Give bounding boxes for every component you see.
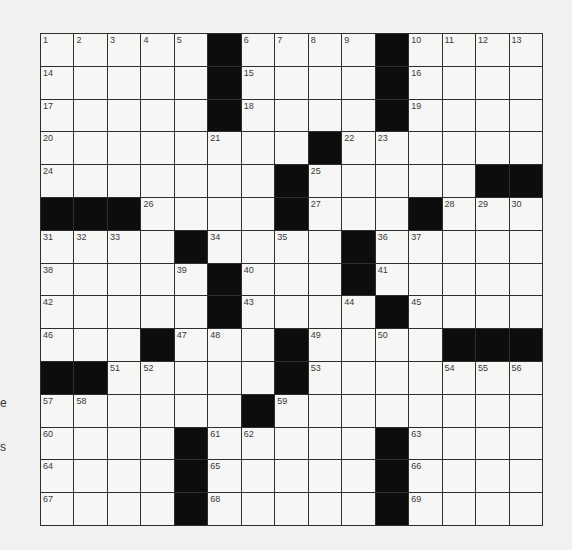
crossword-cell[interactable] <box>309 296 341 328</box>
crossword-cell[interactable] <box>275 132 307 164</box>
crossword-cell[interactable] <box>409 362 441 394</box>
crossword-cell[interactable] <box>108 100 140 132</box>
crossword-cell[interactable] <box>510 264 542 296</box>
crossword-cell[interactable]: 4 <box>141 34 173 66</box>
crossword-cell[interactable]: 66 <box>409 460 441 492</box>
crossword-cell[interactable]: 46 <box>41 329 73 361</box>
crossword-cell[interactable] <box>342 362 374 394</box>
crossword-cell[interactable] <box>141 264 173 296</box>
crossword-cell[interactable] <box>376 198 408 230</box>
crossword-cell[interactable] <box>443 395 475 427</box>
crossword-cell[interactable] <box>141 67 173 99</box>
crossword-cell[interactable] <box>208 362 240 394</box>
crossword-cell[interactable]: 37 <box>409 231 441 263</box>
crossword-cell[interactable] <box>476 100 508 132</box>
crossword-cell[interactable] <box>108 395 140 427</box>
crossword-cell[interactable] <box>141 296 173 328</box>
crossword-cell[interactable] <box>242 329 274 361</box>
crossword-cell[interactable] <box>409 165 441 197</box>
crossword-cell[interactable] <box>476 264 508 296</box>
crossword-cell[interactable]: 56 <box>510 362 542 394</box>
crossword-cell[interactable]: 15 <box>242 67 274 99</box>
crossword-cell[interactable] <box>108 67 140 99</box>
crossword-cell[interactable] <box>242 460 274 492</box>
crossword-cell[interactable]: 21 <box>208 132 240 164</box>
crossword-cell[interactable]: 60 <box>41 428 73 460</box>
crossword-cell[interactable] <box>510 460 542 492</box>
crossword-cell[interactable] <box>141 493 173 525</box>
crossword-cell[interactable]: 22 <box>342 132 374 164</box>
crossword-cell[interactable] <box>175 165 207 197</box>
crossword-cell[interactable]: 10 <box>409 34 441 66</box>
crossword-cell[interactable]: 68 <box>208 493 240 525</box>
crossword-cell[interactable] <box>342 329 374 361</box>
crossword-cell[interactable]: 58 <box>74 395 106 427</box>
crossword-cell[interactable] <box>141 231 173 263</box>
crossword-cell[interactable] <box>175 132 207 164</box>
crossword-cell[interactable] <box>242 165 274 197</box>
crossword-cell[interactable]: 48 <box>208 329 240 361</box>
crossword-cell[interactable]: 17 <box>41 100 73 132</box>
crossword-cell[interactable] <box>108 264 140 296</box>
crossword-cell[interactable]: 59 <box>275 395 307 427</box>
crossword-cell[interactable]: 26 <box>141 198 173 230</box>
crossword-cell[interactable] <box>141 460 173 492</box>
crossword-cell[interactable] <box>74 100 106 132</box>
crossword-cell[interactable]: 14 <box>41 67 73 99</box>
crossword-cell[interactable]: 51 <box>108 362 140 394</box>
crossword-cell[interactable] <box>175 362 207 394</box>
crossword-cell[interactable]: 13 <box>510 34 542 66</box>
crossword-cell[interactable]: 38 <box>41 264 73 296</box>
crossword-cell[interactable]: 30 <box>510 198 542 230</box>
crossword-cell[interactable] <box>342 67 374 99</box>
crossword-cell[interactable] <box>342 493 374 525</box>
crossword-cell[interactable] <box>275 460 307 492</box>
crossword-cell[interactable]: 20 <box>41 132 73 164</box>
crossword-cell[interactable]: 8 <box>309 34 341 66</box>
crossword-cell[interactable] <box>443 67 475 99</box>
crossword-cell[interactable] <box>108 460 140 492</box>
crossword-cell[interactable]: 7 <box>275 34 307 66</box>
crossword-cell[interactable] <box>242 493 274 525</box>
crossword-cell[interactable] <box>275 428 307 460</box>
crossword-cell[interactable] <box>74 67 106 99</box>
crossword-cell[interactable]: 31 <box>41 231 73 263</box>
crossword-cell[interactable]: 43 <box>242 296 274 328</box>
crossword-cell[interactable] <box>443 264 475 296</box>
crossword-cell[interactable]: 28 <box>443 198 475 230</box>
crossword-cell[interactable]: 69 <box>409 493 441 525</box>
crossword-cell[interactable]: 2 <box>74 34 106 66</box>
crossword-cell[interactable]: 34 <box>208 231 240 263</box>
crossword-cell[interactable]: 55 <box>476 362 508 394</box>
crossword-cell[interactable] <box>275 67 307 99</box>
crossword-cell[interactable] <box>409 264 441 296</box>
crossword-cell[interactable] <box>510 231 542 263</box>
crossword-cell[interactable] <box>443 231 475 263</box>
crossword-cell[interactable] <box>309 395 341 427</box>
crossword-cell[interactable] <box>376 362 408 394</box>
crossword-cell[interactable]: 18 <box>242 100 274 132</box>
crossword-cell[interactable]: 32 <box>74 231 106 263</box>
crossword-cell[interactable] <box>309 67 341 99</box>
crossword-cell[interactable] <box>409 132 441 164</box>
crossword-cell[interactable] <box>476 296 508 328</box>
crossword-cell[interactable]: 27 <box>309 198 341 230</box>
crossword-cell[interactable]: 3 <box>108 34 140 66</box>
crossword-cell[interactable] <box>376 165 408 197</box>
crossword-cell[interactable] <box>108 132 140 164</box>
crossword-cell[interactable] <box>141 132 173 164</box>
crossword-cell[interactable]: 41 <box>376 264 408 296</box>
crossword-cell[interactable] <box>476 493 508 525</box>
crossword-cell[interactable]: 65 <box>208 460 240 492</box>
crossword-cell[interactable] <box>74 132 106 164</box>
crossword-cell[interactable] <box>476 231 508 263</box>
crossword-cell[interactable] <box>141 100 173 132</box>
crossword-cell[interactable] <box>443 460 475 492</box>
crossword-cell[interactable] <box>309 264 341 296</box>
crossword-cell[interactable] <box>510 493 542 525</box>
crossword-cell[interactable]: 24 <box>41 165 73 197</box>
crossword-cell[interactable] <box>510 100 542 132</box>
crossword-cell[interactable] <box>175 100 207 132</box>
crossword-cell[interactable] <box>476 428 508 460</box>
crossword-cell[interactable] <box>141 165 173 197</box>
